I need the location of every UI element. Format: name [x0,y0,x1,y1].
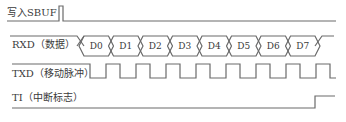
rxd-bit-label: D4 [208,41,221,51]
rxd-bit-label: D3 [178,41,191,51]
rxd-bit-label: D1 [119,41,132,51]
rxd-bit-label: D0 [90,41,103,51]
rxd-bit-label: D6 [267,41,280,51]
rxd-bit-label: D7 [296,41,309,51]
rxd-bit-label: D2 [149,41,162,51]
rxd-bits-layer: D0D1D2D3D4D5D6D7 [0,0,346,122]
rxd-bit-label: D5 [237,41,250,51]
